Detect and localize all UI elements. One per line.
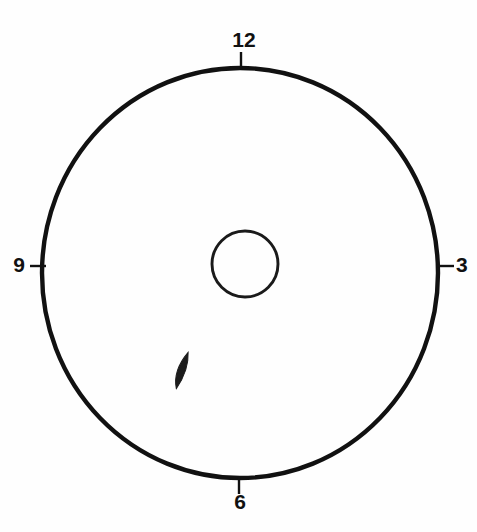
outer-boundary-circle [42, 68, 438, 478]
dark-lens-marker-shape [171, 351, 192, 389]
diagram-canvas: 12369 [0, 0, 477, 532]
hour-label-9: 9 [13, 253, 25, 276]
hour-tick-marks [30, 52, 454, 494]
clock-face-diagram: 12369 [0, 0, 477, 532]
hour-label-6: 6 [234, 490, 246, 513]
dark-lens-marker [171, 351, 192, 389]
hour-label-3: 3 [456, 253, 468, 276]
inner-center-circle [212, 231, 278, 297]
hour-number-labels: 12369 [13, 28, 467, 513]
hour-label-12: 12 [232, 28, 255, 51]
